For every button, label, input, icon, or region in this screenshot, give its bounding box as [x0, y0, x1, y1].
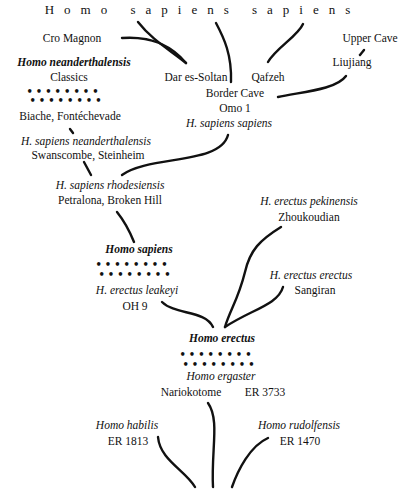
branch-oh9-erectus [162, 302, 213, 327]
label-er-3733: ER 3733 [245, 385, 286, 399]
label-sangiran: Sangiran [295, 283, 336, 297]
branch-liujiang-omo [278, 76, 346, 97]
label-classics: Classics [50, 70, 88, 84]
label-er-1470: ER 1470 [280, 434, 321, 448]
label-qafzeh: Qafzeh [251, 70, 284, 84]
label-homo-neanderthalensis: Homo neanderthalensis [17, 55, 130, 69]
label-border-cave: Border Cave [206, 86, 264, 100]
label-h-erectus-pekinensis: H. erectus pekinensis [260, 194, 358, 208]
label-zhoukoudian: Zhoukoudian [278, 210, 339, 224]
branch-title-qafzeh [268, 24, 303, 62]
branch-title-darsoltan [138, 22, 186, 63]
branch-cromagnon-darsoltan [122, 38, 186, 63]
label-er-1813: ER 1813 [108, 434, 149, 448]
branch-swanscombe-rhod [84, 162, 91, 175]
label-omo-1: Omo 1 [219, 101, 251, 115]
branch-habilis-root [158, 437, 195, 487]
label-h-sapiens-rhodesiensis: H. sapiens rhodesiensis [56, 178, 165, 192]
label-h-erectus-leakeyi: H. erectus leakeyi [96, 283, 178, 297]
branch-ergaster-root [208, 403, 214, 487]
species-separator-dots: •••••••• [98, 270, 173, 280]
label-dar-es-soltan: Dar es-Soltan [165, 70, 228, 84]
species-separator-dots: •••••••• [29, 96, 104, 106]
label-swanscombe-steinheim: Swanscombe, Steinheim [31, 148, 144, 162]
branch-rudolfensis-root [232, 438, 268, 487]
label-h-sapiens-neanderthalensis: H. sapiens neanderthalensis [21, 134, 151, 148]
label-biache-fontechevade: Biache, Fontéchevade [19, 109, 121, 123]
label-nariokotome: Nariokotome [161, 385, 222, 399]
label-h-erectus-erectus: H. erectus erectus [270, 268, 353, 282]
label-cro-magnon: Cro Magnon [43, 31, 101, 45]
label-petralona-broken-hill: Petralona, Broken Hill [58, 193, 162, 207]
branch-petralona-hs [117, 212, 134, 242]
apex-species-homo-sapiens-sapiens: Homo sapiens sapiens [0, 2, 405, 18]
label-h-sapiens-sapiens: H. sapiens sapiens [186, 116, 272, 130]
label-homo-sapiens: Homo sapiens [105, 242, 172, 256]
label-homo-rudolfensis: Homo rudolfensis [258, 418, 340, 432]
label-homo-habilis: Homo habilis [96, 418, 158, 432]
label-homo-ergaster: Homo ergaster [187, 369, 256, 383]
label-liujiang: Liujiang [333, 55, 372, 69]
label-upper-cave: Upper Cave [342, 31, 397, 45]
branch-biache-hsn [70, 129, 73, 133]
label-homo-erectus: Homo erectus [189, 331, 255, 345]
label-oh-9: OH 9 [122, 299, 147, 313]
